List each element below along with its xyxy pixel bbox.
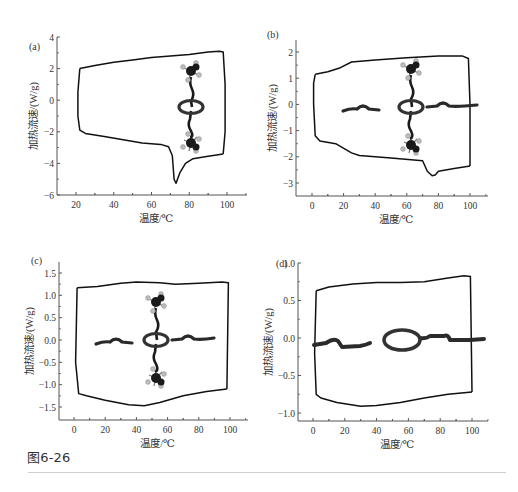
x-tick-label: 40 <box>132 425 142 435</box>
y-tick-label: −1.5 <box>39 403 56 413</box>
x-axis-label: 温度/℃ <box>380 438 415 450</box>
chart-panel-b: 210−1−2−3020406080100温度/℃加热流速/(W/g)(b) <box>266 29 488 225</box>
x-tick-label: 20 <box>100 425 110 435</box>
y-tick-label: 0.0 <box>44 336 56 346</box>
y-tick-label: −0.5 <box>39 358 56 368</box>
x-tick-label: 40 <box>372 426 382 436</box>
x-tick-label: 60 <box>402 201 412 211</box>
y-tick-label: 0 <box>49 96 54 106</box>
panel-label: (c) <box>31 255 42 267</box>
panel-label: (b) <box>267 29 279 41</box>
x-tick-label: 60 <box>404 426 414 436</box>
x-tick-label: 20 <box>71 200 81 210</box>
x-tick-label: 80 <box>185 200 195 210</box>
x-axis-label: 温度/℃ <box>139 212 174 224</box>
y-tick-label: −1.0 <box>39 380 56 390</box>
y-tick-label: −1 <box>283 126 293 136</box>
molecule-illustration <box>179 61 203 154</box>
chart-panel-d: 1.00.50.0−0.5−1.0020406080100温度/℃加热流速/(W… <box>262 258 488 450</box>
y-tick-label: −0.5 <box>278 371 295 381</box>
x-tick-label: 40 <box>370 201 380 211</box>
y-tick-label: 2 <box>49 64 54 74</box>
x-tick-label: 40 <box>109 200 119 210</box>
curve-heating <box>315 56 470 166</box>
figure-caption: 图6-26 <box>27 447 71 466</box>
x-axis-label: 温度/℃ <box>379 213 414 225</box>
y-tick-label: −2 <box>283 152 293 162</box>
x-tick-label: 0 <box>311 426 316 436</box>
curve-cooling <box>314 74 470 175</box>
y-tick-label: 1.0 <box>44 291 56 301</box>
curve-heating <box>77 282 228 389</box>
figure-6-26: 420−2−4−620406080100温度/℃加热流速/(W/g)(a)210… <box>0 0 518 492</box>
divider-line <box>28 472 506 473</box>
x-tick-label: 100 <box>463 201 478 211</box>
y-tick-label: −1.0 <box>278 409 295 419</box>
x-tick-label: 60 <box>163 425 173 435</box>
y-tick-label: 0.5 <box>44 313 56 323</box>
curve-heating <box>80 51 225 154</box>
x-tick-label: 100 <box>223 425 238 435</box>
y-tick-label: 0.0 <box>283 334 295 344</box>
y-tick-label: −6 <box>44 191 54 201</box>
x-tick-label: 0 <box>310 201 315 211</box>
molecule-illustration <box>343 59 477 156</box>
curve-heating <box>316 276 472 392</box>
y-axis-label: 加热流速/(W/g) <box>27 82 40 150</box>
y-tick-label: 2 <box>288 48 293 58</box>
x-tick-label: 60 <box>147 200 157 210</box>
curve-cooling <box>78 69 223 184</box>
molecule-illustration <box>96 292 214 389</box>
panel-label: (a) <box>29 41 40 53</box>
x-axis-label: 温度/℃ <box>140 437 175 449</box>
x-tick-label: 100 <box>220 200 235 210</box>
chart-panel-c: 1.51.00.50.0−0.5−1.0−1.5020406080100温度/℃… <box>23 255 248 449</box>
x-tick-label: 80 <box>194 425 204 435</box>
y-tick-label: 1 <box>288 74 293 84</box>
x-tick-label: 20 <box>340 426 350 436</box>
panel-label: (d) <box>276 258 288 270</box>
y-axis-label: 加热流速/(W/g) <box>266 84 279 152</box>
x-tick-label: 80 <box>434 201 444 211</box>
y-tick-label: 0.5 <box>283 296 295 306</box>
x-tick-label: 80 <box>435 426 445 436</box>
x-tick-label: 20 <box>339 201 349 211</box>
dsc-thermogram-grid: 420−2−4−620406080100温度/℃加热流速/(W/g)(a)210… <box>0 0 518 492</box>
y-tick-label: −3 <box>283 179 293 189</box>
y-tick-label: 0 <box>288 100 293 110</box>
y-tick-label: 4 <box>49 33 54 43</box>
chart-panel-a: 420−2−4−620406080100温度/℃加热流速/(W/g)(a) <box>27 33 247 225</box>
y-axis-label: 加热流速/(W/g) <box>262 308 275 376</box>
y-tick-label: −2 <box>44 127 54 137</box>
y-tick-label: −4 <box>44 159 54 169</box>
molecule-illustration <box>314 330 484 350</box>
y-axis-label: 加热流速/(W/g) <box>23 307 36 375</box>
x-tick-label: 100 <box>465 426 480 436</box>
x-tick-label: 0 <box>72 425 77 435</box>
y-tick-label: 1.5 <box>44 269 56 279</box>
